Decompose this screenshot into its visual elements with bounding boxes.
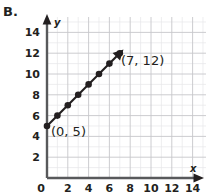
y-tick-10: 10 [25, 68, 41, 81]
annotation-end-point: (7, 12) [121, 53, 164, 68]
data-point [54, 112, 61, 119]
y-axis [43, 14, 52, 178]
data-point [75, 92, 82, 99]
coordinate-plane: y x 14 12 10 8 6 4 2 0 2 4 6 8 10 12 14 [0, 0, 206, 196]
y-axis-name: y [54, 17, 61, 28]
y-tick-8: 8 [32, 89, 40, 102]
y-tick-12: 12 [25, 47, 40, 60]
annotation-start-point: (0, 5) [51, 124, 86, 139]
x-tick-14: 14 [185, 182, 201, 195]
data-point [85, 81, 92, 88]
x-tick-labels: 0 2 4 6 8 10 12 14 [37, 182, 200, 195]
x-tick-12: 12 [164, 182, 179, 195]
y-tick-4: 4 [32, 130, 40, 143]
x-tick-2: 2 [64, 182, 72, 195]
y-tick-6: 6 [32, 110, 40, 123]
y-tick-labels: 14 12 10 8 6 4 2 [25, 26, 41, 164]
data-point [106, 60, 113, 67]
x-axis-name: x [189, 163, 197, 174]
x-tick-4: 4 [85, 182, 93, 195]
x-tick-10: 10 [143, 182, 159, 195]
graph-figure: B. [0, 0, 206, 196]
x-tick-6: 6 [106, 182, 114, 195]
grid-minor [47, 17, 206, 178]
data-point [96, 71, 103, 78]
data-point [44, 123, 51, 130]
x-tick-8: 8 [126, 182, 134, 195]
x-tick-0: 0 [37, 182, 45, 195]
data-point [65, 102, 72, 109]
y-tick-2: 2 [32, 151, 40, 164]
y-tick-14: 14 [25, 26, 41, 39]
